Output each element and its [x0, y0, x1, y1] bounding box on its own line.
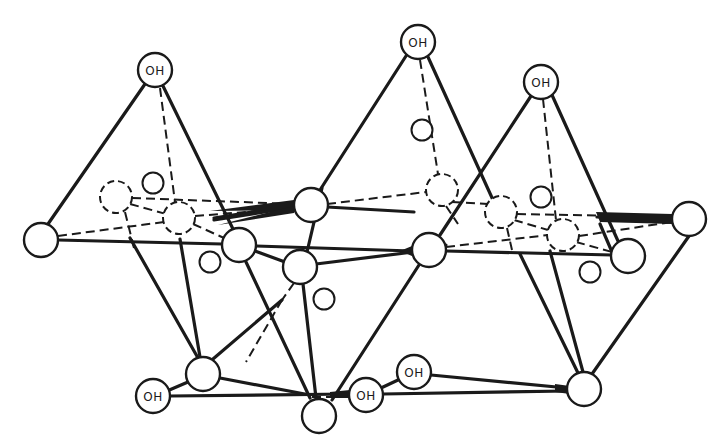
- oxygen-atom: [302, 399, 336, 433]
- hidden-atom: [426, 174, 458, 206]
- oxygen-atom: [24, 223, 58, 257]
- oh-atom-top-right: OH: [524, 65, 558, 99]
- oh-atom-bottom-left: OH: [136, 379, 170, 413]
- oh-atom-bottom-right: OH: [397, 355, 431, 389]
- cation-atom: [200, 252, 221, 273]
- cation-atom: [580, 262, 601, 283]
- oh-label: OH: [531, 76, 550, 90]
- oxygen-atom: [611, 239, 645, 273]
- bond-wedge: [596, 212, 672, 224]
- oxygen-atom: [412, 233, 446, 267]
- oh-label: OH: [356, 389, 375, 403]
- oxygen-atom: [294, 188, 328, 222]
- hidden-atom: [163, 202, 195, 234]
- oh-atom-bottom-middle: OH: [349, 378, 383, 412]
- cation-atom: [531, 187, 552, 208]
- cation-atom: [314, 289, 335, 310]
- oxygen-atom: [222, 228, 256, 262]
- oxygen-atom: [567, 372, 601, 406]
- hidden-atom: [547, 219, 579, 251]
- hidden-atom: [485, 196, 517, 228]
- cation-atom: [412, 120, 433, 141]
- oh-label: OH: [408, 36, 427, 50]
- oh-label: OH: [404, 366, 423, 380]
- crystal-structure-diagram: OH OH OH OH OH OH: [0, 0, 728, 443]
- oh-label: OH: [145, 64, 164, 78]
- oh-atom-top-middle: OH: [401, 25, 435, 59]
- oxygen-atom: [283, 250, 317, 284]
- oxygen-atom: [672, 202, 706, 236]
- oh-atom-top-left: OH: [138, 53, 172, 87]
- bond-wedge: [330, 390, 350, 398]
- oxygen-atom: [186, 357, 220, 391]
- oh-label: OH: [143, 390, 162, 404]
- visible-bonds: [48, 56, 689, 400]
- hidden-atom: [100, 181, 132, 213]
- cation-atom: [143, 173, 164, 194]
